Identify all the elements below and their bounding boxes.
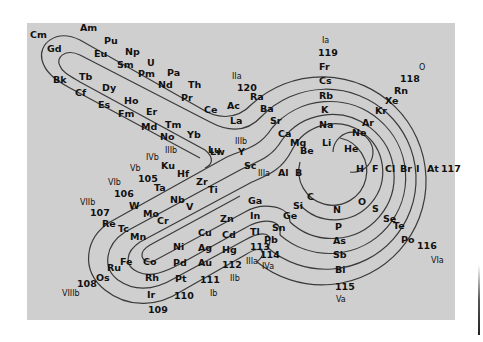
element-label: Te xyxy=(393,220,405,231)
element-label: S xyxy=(372,203,379,214)
element-label: O xyxy=(358,196,366,207)
group-label: IVb xyxy=(146,153,159,162)
group-label: Ia xyxy=(322,36,329,45)
group-label: IVa xyxy=(262,262,274,271)
element-label: Pa xyxy=(167,67,180,78)
element-label: Ge xyxy=(283,210,297,221)
element-label: As xyxy=(333,235,346,246)
element-label: Bi xyxy=(335,264,346,275)
element-label: 112 xyxy=(222,259,242,270)
element-label: Y xyxy=(237,146,245,157)
element-label: Au xyxy=(198,257,212,268)
element-label: No xyxy=(160,131,175,142)
element-label: In xyxy=(250,210,261,221)
element-label: Ni xyxy=(173,241,184,252)
element-label: 119 xyxy=(318,47,338,58)
element-label: Pm xyxy=(138,68,155,79)
group-label: Ib xyxy=(210,289,217,298)
element-label: B xyxy=(295,167,302,178)
element-label: Be xyxy=(300,145,314,156)
element-label: Fm xyxy=(118,108,134,119)
group-label: VIa xyxy=(431,256,444,265)
group-label: IIIa xyxy=(246,257,258,266)
element-label: 111 xyxy=(200,274,220,285)
group-label: IIa xyxy=(232,72,242,81)
group-label: IIIa xyxy=(258,169,270,178)
element-label: Gd xyxy=(47,43,62,54)
element-labels: CmAmGdPuEuNpSmUPmPaNdThPrCeAcLaRaBaSrCaM… xyxy=(30,22,461,315)
element-label: Fr xyxy=(319,61,330,72)
element-label: W xyxy=(129,200,140,211)
element-label: Sb xyxy=(333,249,347,260)
element-label: 117 xyxy=(441,163,461,174)
element-label: Ag xyxy=(198,242,212,253)
element-label: Ta xyxy=(154,182,166,193)
element-label: La xyxy=(230,115,242,126)
element-label: Xe xyxy=(385,95,399,106)
element-label: Yb xyxy=(186,129,201,140)
element-label: 114 xyxy=(260,249,280,260)
element-label: U xyxy=(147,57,155,68)
element-label: Ba xyxy=(260,103,274,114)
element-label: Pr xyxy=(181,92,193,103)
element-label: Np xyxy=(125,46,140,57)
spiral-periodic-table: CmAmGdPuEuNpSmUPmPaNdThPrCeAcLaRaBaSrCaM… xyxy=(0,0,483,342)
element-label: F xyxy=(372,163,379,174)
element-label: Ir xyxy=(147,289,156,300)
group-label: IIb xyxy=(230,274,240,283)
element-label: Md xyxy=(141,121,157,132)
element-label: Nd xyxy=(158,79,173,90)
element-label: Cf xyxy=(75,87,87,98)
element-label: Es xyxy=(98,99,110,110)
element-label: Mn xyxy=(130,231,146,242)
element-label: Sr xyxy=(270,115,282,126)
element-label: H xyxy=(356,163,364,174)
element-label: I xyxy=(416,163,420,174)
element-label: Br xyxy=(400,163,412,174)
element-label: Er xyxy=(146,106,157,117)
element-label: Bk xyxy=(53,74,67,85)
element-label: Pd xyxy=(173,257,187,268)
element-label: 115 xyxy=(335,281,355,292)
group-label: VIIb xyxy=(80,198,95,207)
element-label: Al xyxy=(278,167,289,178)
element-label: Ga xyxy=(248,195,262,206)
element-label: Cs xyxy=(319,75,332,86)
element-label: 106 xyxy=(114,188,134,199)
element-label: Cd xyxy=(222,229,236,240)
element-label: Ac xyxy=(227,100,240,111)
element-label: N xyxy=(333,204,341,215)
element-label: Rh xyxy=(145,272,159,283)
element-label: Dy xyxy=(102,82,117,93)
element-label: Ku xyxy=(161,160,175,171)
element-label: Cl xyxy=(385,163,395,174)
element-label: At xyxy=(427,163,439,174)
element-label: Am xyxy=(80,22,97,33)
element-label: Sm xyxy=(117,59,134,70)
group-label: Vb xyxy=(130,164,141,173)
element-label: Nb xyxy=(170,194,185,205)
element-label: K xyxy=(321,104,329,115)
element-label: Tb xyxy=(79,71,92,82)
group-label: VIb xyxy=(108,178,121,187)
element-label: 116 xyxy=(417,240,437,251)
element-label: Rb xyxy=(319,90,333,101)
element-label: P xyxy=(335,221,342,232)
element-label: Cm xyxy=(30,29,47,40)
element-label: C xyxy=(307,191,314,202)
element-label: Fe xyxy=(120,256,133,267)
f-block-outer xyxy=(41,36,252,158)
element-label: Kr xyxy=(375,105,387,116)
element-label: Tc xyxy=(118,223,129,234)
element-label: Tl xyxy=(250,226,260,237)
element-label: Pb xyxy=(264,234,278,245)
group-label: IIIb xyxy=(235,137,247,146)
group-label: O xyxy=(419,63,425,72)
element-label: Rn xyxy=(394,85,408,96)
element-label: Sc xyxy=(244,160,256,171)
element-label: Na xyxy=(319,119,333,130)
element-label: Tm xyxy=(165,119,181,130)
element-label: 109 xyxy=(148,304,168,315)
element-label: Cr xyxy=(157,215,169,226)
element-label: Pu xyxy=(104,35,118,46)
